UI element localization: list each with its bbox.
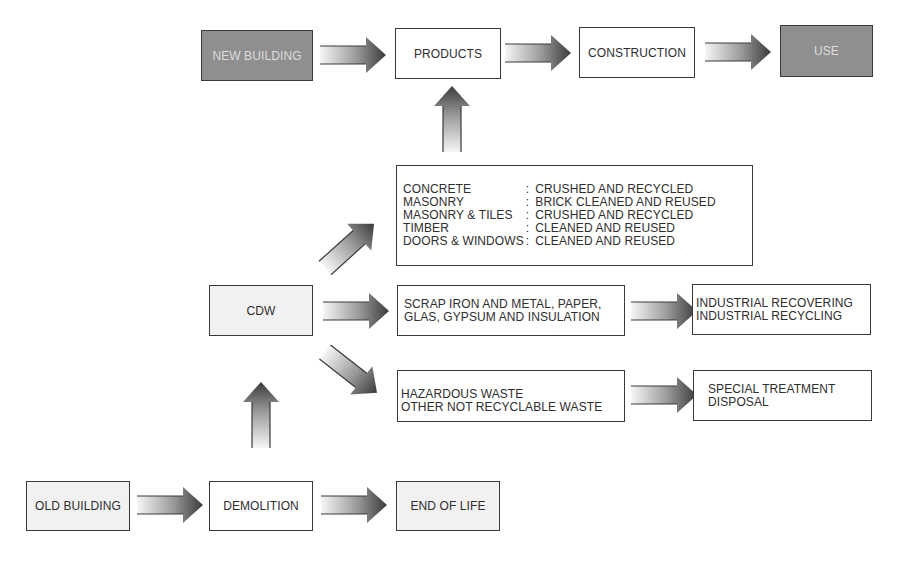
- node-label: NEW BUILDING: [212, 49, 301, 63]
- treatment: CLEANED AND REUSED: [535, 235, 715, 248]
- node-line: DISPOSAL: [708, 396, 836, 409]
- node-end-of-life: END OF LIFE: [396, 481, 500, 531]
- arrow-materials-to-products: [434, 86, 470, 152]
- material-name: DOORS & WINDOWS: [403, 235, 524, 248]
- arrow-old-building-to-demolition: [137, 487, 203, 523]
- node-label: CONSTRUCTION: [588, 46, 686, 60]
- node-old-building: OLD BUILDING: [26, 481, 130, 531]
- node-hazardous: HAZARDOUS WASTE OTHER NOT RECYCLABLE WAS…: [397, 370, 625, 422]
- node-construction: CONSTRUCTION: [579, 27, 695, 78]
- arrow-construction-to-use: [705, 34, 771, 70]
- node-label: CDW: [247, 304, 276, 318]
- arrow-scrap-to-industrial: [631, 293, 697, 329]
- node-label: END OF LIFE: [410, 499, 485, 513]
- node-line: GLAS, GYPSUM AND INSULATION: [404, 311, 602, 324]
- node-industrial: INDUSTRIAL RECOVERING INDUSTRIAL RECYCLI…: [692, 284, 871, 335]
- node-use: USE: [780, 25, 873, 77]
- node-products: PRODUCTS: [395, 28, 501, 79]
- node-cdw: CDW: [209, 285, 313, 336]
- node-new-building: NEW BUILDING: [201, 30, 313, 81]
- node-label: PRODUCTS: [414, 47, 482, 61]
- node-line: INDUSTRIAL RECOVERING: [696, 297, 853, 310]
- arrow-cdw-to-hazardous: [314, 338, 388, 407]
- node-scrap: SCRAP IRON AND METAL, PAPER, GLAS, GYPSU…: [397, 285, 625, 336]
- arrow-demolition-to-cdw: [243, 382, 279, 448]
- node-label: USE: [814, 44, 839, 58]
- node-line: OTHER NOT RECYCLABLE WASTE: [401, 401, 602, 414]
- node-line: INDUSTRIAL RECYCLING: [696, 310, 853, 323]
- arrow-hazardous-to-special: [631, 377, 697, 413]
- node-label: OLD BUILDING: [35, 499, 121, 513]
- separator: :: [524, 235, 535, 248]
- table-row: DOORS & WINDOWS : CLEANED AND REUSED: [403, 235, 716, 248]
- node-line: SPECIAL TREATMENT: [708, 383, 836, 396]
- node-line: SCRAP IRON AND METAL, PAPER,: [404, 298, 602, 311]
- node-special: SPECIAL TREATMENT DISPOSAL: [693, 370, 872, 421]
- node-label: DEMOLITION: [223, 499, 299, 513]
- arrow-cdw-to-scrap: [323, 293, 389, 329]
- materials-table: CONCRETE : CRUSHED AND RECYCLED MASONRY …: [403, 183, 716, 248]
- arrow-products-to-construction: [505, 35, 571, 71]
- arrow-cdw-to-materials: [313, 210, 386, 281]
- node-materials: CONCRETE : CRUSHED AND RECYCLED MASONRY …: [396, 165, 753, 266]
- node-demolition: DEMOLITION: [209, 481, 313, 531]
- arrow-new-building-to-products: [320, 37, 386, 73]
- arrow-demolition-to-end-of-life: [321, 487, 387, 523]
